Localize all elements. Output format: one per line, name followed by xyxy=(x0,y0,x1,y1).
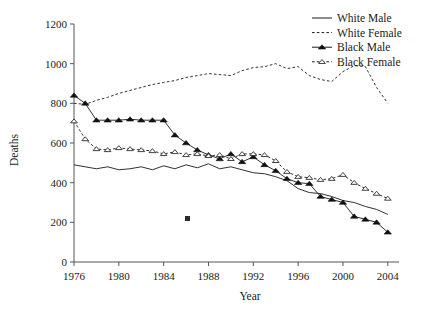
series-line xyxy=(74,64,388,105)
stray-ink-mark xyxy=(185,216,190,221)
x-axis-title: Year xyxy=(239,290,260,302)
data-point-marker xyxy=(171,133,178,137)
y-tick-label: 800 xyxy=(51,97,68,109)
x-tick-label: 1996 xyxy=(287,270,310,282)
y-tick-label: 600 xyxy=(51,137,68,149)
y-tick-label: 200 xyxy=(51,216,68,228)
y-axis-tick-labels: 020040060080010001200 xyxy=(45,18,68,268)
y-axis-ticks xyxy=(70,24,74,262)
data-point-marker xyxy=(227,151,234,155)
series-line xyxy=(74,164,388,215)
data-point-marker xyxy=(328,176,335,180)
y-tick-label: 400 xyxy=(51,177,68,189)
data-point-marker xyxy=(149,149,156,153)
data-point-marker xyxy=(194,152,201,156)
data-point-marker xyxy=(295,174,302,178)
data-point-marker xyxy=(384,196,391,200)
deaths-by-race-sex-line-chart: 020040060080010001200 197619801984198819… xyxy=(0,0,434,315)
x-tick-label: 1976 xyxy=(63,270,86,282)
data-point-marker xyxy=(350,214,357,218)
series-white-male xyxy=(74,164,388,215)
series-black-male xyxy=(70,93,391,234)
x-tick-label: 1992 xyxy=(242,270,264,282)
legend-item-white-male[interactable]: White Male xyxy=(312,12,392,24)
data-point-marker xyxy=(340,172,347,176)
x-tick-label: 2004 xyxy=(377,270,400,282)
legend-marker-open-triangle-icon xyxy=(319,60,326,64)
x-tick-label: 1988 xyxy=(197,270,220,282)
y-tick-label: 1000 xyxy=(45,58,68,70)
series-black-female xyxy=(71,119,392,200)
x-axis-tick-labels: 19761980198419881992199620002004 xyxy=(63,270,399,282)
x-tick-label: 1984 xyxy=(153,270,176,282)
data-point-marker xyxy=(216,153,223,157)
data-point-marker xyxy=(216,156,223,160)
series-line xyxy=(74,95,388,232)
data-point-marker xyxy=(172,150,179,154)
data-point-marker xyxy=(317,177,324,181)
data-point-marker xyxy=(70,93,77,97)
chart-container: 020040060080010001200 197619801984198819… xyxy=(0,0,434,315)
data-point-marker xyxy=(294,180,301,184)
y-tick-label: 0 xyxy=(62,256,68,268)
x-tick-label: 1980 xyxy=(108,270,131,282)
legend-label: Black Female xyxy=(337,56,401,68)
y-tick-label: 1200 xyxy=(45,18,68,30)
legend-label: White Female xyxy=(337,27,402,39)
data-point-marker xyxy=(228,157,235,161)
data-point-marker xyxy=(126,117,133,121)
data-point-marker xyxy=(71,119,78,123)
legend-item-black-male[interactable]: Black Male xyxy=(312,41,390,53)
data-series-layer xyxy=(70,64,391,234)
data-point-marker xyxy=(183,153,190,157)
data-point-marker xyxy=(82,137,89,141)
data-point-marker xyxy=(261,153,268,157)
y-axis-title: Deaths xyxy=(8,134,20,166)
legend-item-white-female[interactable]: White Female xyxy=(312,27,402,39)
data-point-marker xyxy=(93,147,100,151)
series-white-female xyxy=(74,64,388,105)
legend-label: Black Male xyxy=(337,41,390,53)
x-axis-ticks xyxy=(74,262,388,266)
legend-label: White Male xyxy=(337,12,392,24)
data-point-marker xyxy=(115,146,122,150)
data-point-marker xyxy=(373,191,380,195)
chart-legend: White MaleWhite FemaleBlack MaleBlack Fe… xyxy=(312,12,402,68)
x-tick-label: 2000 xyxy=(332,270,355,282)
legend-item-black-female[interactable]: Black Female xyxy=(312,56,401,68)
